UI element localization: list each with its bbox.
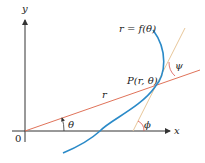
curve-label: r = f(θ) [119,23,156,34]
y-axis-label: y [21,3,28,14]
theta-arc [62,118,64,131]
x-axis-label: x [174,125,180,136]
radius-label: r [102,89,108,100]
polar-diagram: y x 0 r = f(θ) P(r, θ) r θ ϕ ψ [0,0,205,163]
origin-label: 0 [15,133,21,144]
point-label: P(r, θ) [126,75,158,86]
psi-label: ψ [175,60,183,71]
phi-label: ϕ [144,119,151,130]
theta-label: θ [68,119,74,130]
polar-curve [63,30,164,153]
